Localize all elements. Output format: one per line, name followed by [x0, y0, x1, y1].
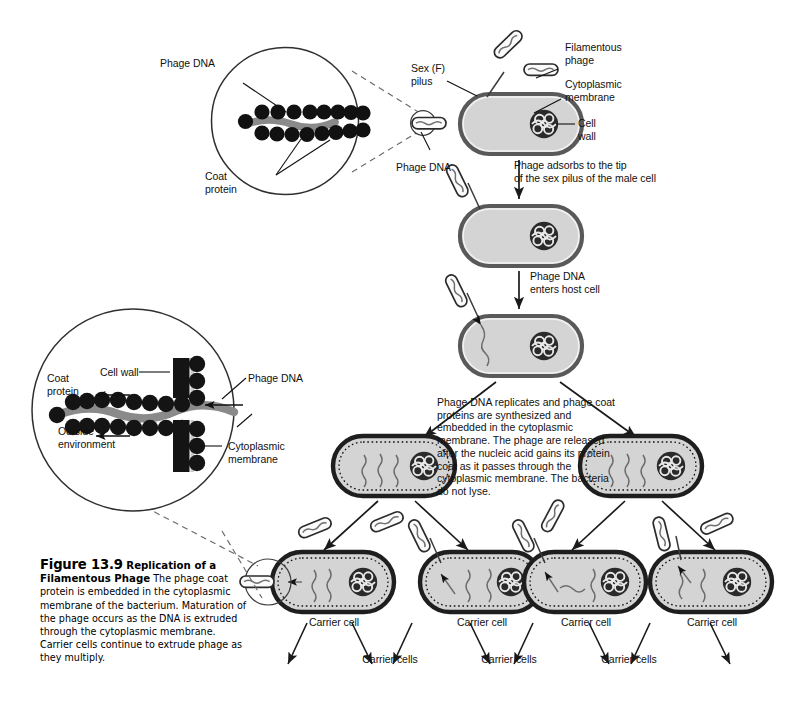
- carrier-cells-label-3: Carrier cells: [584, 653, 674, 666]
- inset-bottom-label-phage-dna: Phage DNA: [248, 372, 303, 385]
- inset-bottom-label-cytoplasmic-membrane: Cytoplasmic membrane: [228, 440, 285, 465]
- carrier-cell-label-4: Carrier cell: [651, 616, 773, 629]
- inset-bottom-label-coat-protein: Coat protein: [47, 372, 79, 397]
- carrier-cell-4: [650, 512, 772, 612]
- carrier-cells-label-2: Carrier cells: [464, 653, 554, 666]
- cell-top: [447, 28, 582, 154]
- carrier-cell-3: [511, 518, 646, 612]
- step-1-text: Phage adsorbs to the tip of the sex pilu…: [514, 159, 656, 184]
- figure-number: Figure 13.9: [40, 557, 123, 572]
- label-sex-pilus: Sex (F) pilus: [411, 62, 445, 87]
- label-cell-wall: Cell wall: [578, 117, 596, 142]
- inset-top-callout-lines: [352, 71, 420, 172]
- step-3-text: Phage DNA replicates and phage coat prot…: [437, 396, 622, 498]
- figure-canvas: Phage DNA Coat protein Phage DNA Sex (F)…: [0, 0, 789, 708]
- inset-top-label-phage-dna-outer: Phage DNA: [396, 161, 451, 174]
- inset-bottom-label-cell-wall: Cell wall: [100, 366, 139, 379]
- carrier-cell-label-3: Carrier cell: [525, 616, 647, 629]
- inset-top-label-coat-protein: Coat protein: [205, 170, 237, 195]
- inset-bottom-circle: [32, 309, 252, 511]
- step-2-text: Phage DNA enters host cell: [530, 270, 600, 295]
- free-phage-particles-mid: [369, 498, 566, 533]
- carrier-cell-1: [240, 516, 394, 612]
- circled-phage-on-pilus: [411, 111, 446, 150]
- arrow-mid-right-to-c3: [572, 501, 625, 550]
- figure-caption: Figure 13.9 Replication of a Filamentous…: [40, 558, 247, 665]
- figure-body-text: The phage coat protein is embedded in th…: [40, 573, 246, 663]
- carrier-cell-label-1: Carrier cell: [273, 616, 395, 629]
- inset-bottom-label-outside-environment: Outside environment: [58, 425, 115, 450]
- label-cytoplasmic-membrane: Cytoplasmic membrane: [565, 78, 622, 103]
- label-filamentous-phage: Filamentous phage: [565, 41, 622, 66]
- inset-top-label-phage-dna: Phage DNA: [160, 57, 215, 70]
- carrier-cells-label-1: Carrier cells: [345, 653, 435, 666]
